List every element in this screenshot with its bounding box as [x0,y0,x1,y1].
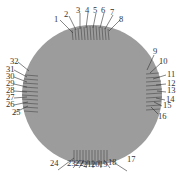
top-labels: 1 2 3 4 5 6 7 8 [54,5,123,24]
label-7: 7 [110,7,114,17]
label-3: 3 [76,5,80,15]
label-5: 5 [93,5,97,15]
label-32: 32 [10,56,19,66]
label-9: 9 [153,46,157,56]
label-8: 8 [119,14,123,24]
left-labels: 25 26 27 28 29 30 31 32 [6,56,21,117]
label-2: 2 [64,9,68,19]
label-21: 21 [83,159,92,169]
label-23: 23 [67,158,76,168]
label-15: 15 [163,100,172,110]
label-24: 24 [50,158,59,168]
label-1: 1 [54,14,58,24]
label-6: 6 [101,5,105,15]
label-20: 20 [91,159,100,169]
label-18: 18 [108,157,117,167]
wafer-disc [22,25,162,165]
wafer-diagram: 1 2 3 4 5 6 7 8 9 10 11 12 13 14 15 16 1… [0,0,184,177]
label-19: 19 [99,159,108,169]
label-10: 10 [159,56,168,66]
label-17: 17 [127,154,136,164]
label-22: 22 [75,158,84,168]
label-4: 4 [85,5,90,15]
label-16: 16 [158,111,167,121]
